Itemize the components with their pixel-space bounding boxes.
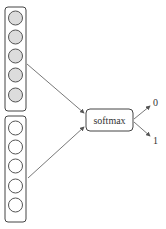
unit-circle-filled bbox=[9, 68, 23, 82]
unit-circle-empty bbox=[9, 140, 23, 154]
output-label-0: 0 bbox=[153, 97, 158, 108]
unit-circle-filled bbox=[9, 88, 23, 102]
input-group-bottom bbox=[5, 116, 26, 222]
unit-circle-filled bbox=[9, 49, 23, 63]
softmax-node: softmax bbox=[86, 109, 133, 131]
unit-circle-filled bbox=[9, 30, 23, 44]
arrow-top-to-softmax bbox=[27, 64, 84, 113]
arrow-output-0 bbox=[134, 106, 150, 119]
input-group-top bbox=[5, 7, 26, 111]
unit-circle-filled bbox=[9, 11, 23, 25]
arrow-output-1 bbox=[134, 122, 150, 136]
arrow-bottom-to-softmax bbox=[28, 127, 84, 178]
unit-circle-empty bbox=[9, 159, 23, 173]
diagram-canvas: softmax 0 1 bbox=[0, 0, 166, 229]
softmax-label: softmax bbox=[93, 115, 125, 126]
unit-circle-empty bbox=[9, 198, 23, 212]
unit-circle-empty bbox=[9, 179, 23, 193]
output-label-1: 1 bbox=[153, 135, 158, 146]
unit-circle-empty bbox=[9, 121, 23, 135]
